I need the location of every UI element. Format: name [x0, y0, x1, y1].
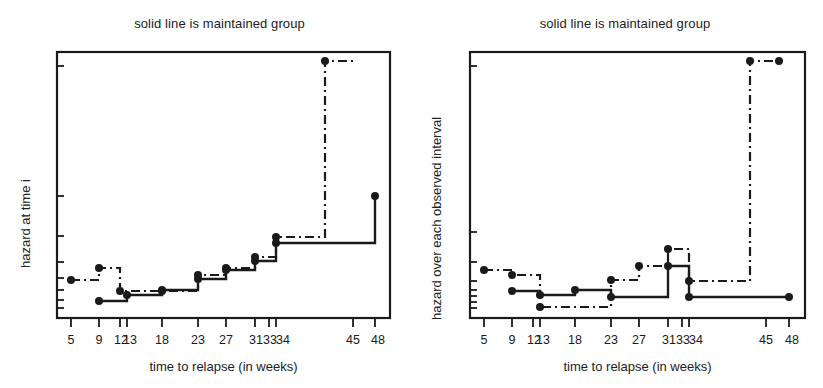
panel-right-tick-label-1: 9	[509, 333, 516, 347]
panel-left-x-ticks	[71, 318, 375, 327]
panel-right-tick-label-10: 45	[759, 333, 773, 347]
panel-left-plot	[0, 0, 411, 388]
panel-right-tick-label-9: 34	[689, 333, 703, 347]
panel-left: solid line is maintained group hazard at…	[0, 0, 411, 388]
figure-root: solid line is maintained group hazard at…	[0, 0, 823, 388]
panel-right-tick-label-11: 48	[785, 333, 799, 347]
panel-right: solid line is maintained group hazard ov…	[411, 0, 823, 388]
panel-right-tick-label-8: 33	[676, 333, 690, 347]
panel-left-tick-label-10: 45	[346, 333, 360, 347]
panel-right-plot	[411, 0, 823, 388]
panel-right-tick-label-3: 13	[536, 333, 550, 347]
panel-right-x-axis-label: time to relapse (in weeks)	[470, 359, 805, 374]
panel-left-tick-label-7: 31	[249, 333, 263, 347]
panel-right-maintained-step	[512, 266, 789, 297]
panel-left-tick-label-11: 48	[371, 333, 385, 347]
panel-right-axes-frame	[470, 52, 805, 318]
panel-left-tick-label-5: 23	[191, 333, 205, 347]
panel-right-tick-label-5: 23	[604, 333, 618, 347]
panel-left-tick-label-8: 33	[263, 333, 277, 347]
panel-right-tick-label-7: 31	[662, 333, 676, 347]
panel-left-tick-label-0: 5	[68, 333, 75, 347]
panel-right-tick-label-6: 27	[632, 333, 646, 347]
panel-right-tick-label-4: 18	[568, 333, 582, 347]
panel-left-tick-label-9: 34	[276, 333, 290, 347]
panel-right-nonmaintained-step	[484, 61, 779, 307]
panel-right-tick-label-0: 5	[481, 333, 488, 347]
panel-left-tick-label-6: 27	[219, 333, 233, 347]
panel-left-maintained-markers	[95, 192, 379, 305]
panel-left-nonmaintained-markers	[67, 57, 329, 295]
panel-left-x-axis-label: time to relapse (in weeks)	[57, 359, 390, 374]
panel-left-tick-label-3: 13	[123, 333, 137, 347]
panel-right-x-ticks	[484, 318, 789, 327]
panel-left-nonmaintained-step	[71, 61, 353, 291]
panel-left-tick-label-4: 18	[155, 333, 169, 347]
panel-left-maintained-step	[99, 196, 375, 301]
panel-right-nonmaintained-markers	[480, 57, 783, 311]
panel-left-tick-label-1: 9	[96, 333, 103, 347]
